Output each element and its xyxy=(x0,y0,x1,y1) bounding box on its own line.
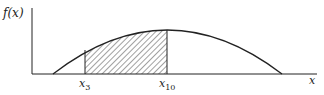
area-under-curve-diagram: f(x) x x3 x10 xyxy=(0,0,324,95)
x-axis-label: x xyxy=(309,74,316,87)
x3-label: x3 xyxy=(79,77,90,92)
y-axis-label: f(x) xyxy=(2,6,24,20)
x10-label: x10 xyxy=(159,77,175,92)
